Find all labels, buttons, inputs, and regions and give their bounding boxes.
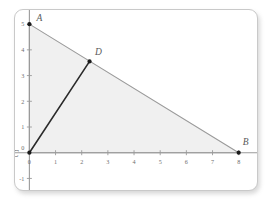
point-label-C: C xyxy=(15,149,19,159)
point-label-B: B xyxy=(243,137,249,147)
x-tick-label: 6 xyxy=(185,158,188,165)
coordinate-plot: ADBC 012345678-1123450 xyxy=(15,10,257,190)
plot-card: ADBC 012345678-1123450 xyxy=(14,9,258,191)
x-tick-label: 1 xyxy=(54,158,57,165)
x-tick-label: 8 xyxy=(237,158,240,165)
y-tick-label: 1 xyxy=(21,123,24,130)
x-tick-label: 4 xyxy=(132,158,135,165)
point-C xyxy=(27,151,31,155)
origin-y-label: 0 xyxy=(21,144,24,151)
y-tick-label: 2 xyxy=(21,98,24,105)
x-tick-label: 5 xyxy=(159,158,162,165)
y-tick-label: 4 xyxy=(21,46,24,53)
point-label-D: D xyxy=(94,47,102,57)
x-tick-label: 7 xyxy=(211,158,214,165)
point-D xyxy=(87,59,91,63)
figure-root: ADBC 012345678-1123450 xyxy=(0,0,268,201)
y-tick-label: -1 xyxy=(19,175,24,182)
y-tick-label: 5 xyxy=(21,20,24,27)
point-A xyxy=(27,22,31,26)
y-tick-label: 3 xyxy=(21,72,24,79)
x-tick-label: 0 xyxy=(28,158,31,165)
point-B xyxy=(237,151,241,155)
point-label-A: A xyxy=(35,13,42,23)
x-tick-label: 3 xyxy=(106,158,109,165)
x-tick-label: 2 xyxy=(80,158,83,165)
